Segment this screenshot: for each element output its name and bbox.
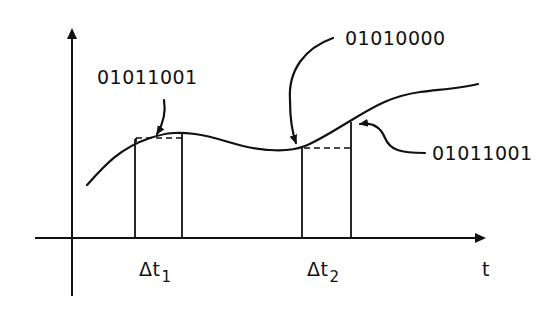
label-dt2: Δt2 [307,258,340,286]
label-dt1: Δt1 [139,258,172,286]
label-code-2: 01010000 [345,27,446,49]
label-code-1: 01011001 [97,66,198,88]
sampling-diagram: 01011001 01010000 01011001 Δt1 Δt2 t [0,0,551,312]
arrow-3-icon [360,124,425,153]
label-code-3: 01011001 [432,142,533,164]
signal-curve [87,84,478,185]
label-x-axis: t [482,258,490,280]
arrow-2-icon [290,38,333,143]
arrow-1-icon [157,100,165,134]
